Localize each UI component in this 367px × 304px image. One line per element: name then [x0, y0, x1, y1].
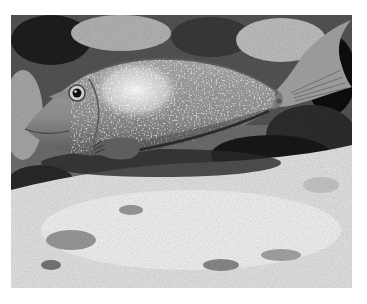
image-description: Grayscale photograph of a unicornfish sw… [11, 15, 12, 16]
fish-photo: Grayscale photograph of a unicornfish sw… [11, 15, 352, 288]
photo-canvas [11, 15, 352, 288]
